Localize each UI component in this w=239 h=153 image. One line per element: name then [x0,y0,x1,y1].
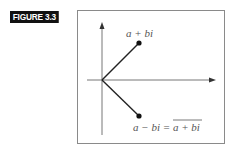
imaginary-axis-arrow-icon [100,22,105,29]
complex-plane-diagram [0,0,239,153]
label-z-conjugate-left: a − bi = [133,121,173,133]
label-z: a + bi [126,27,153,39]
vector-z [102,43,139,80]
point-z-conjugate [136,113,141,118]
real-axis [87,78,216,83]
vector-z-conjugate [102,80,139,116]
real-axis-arrow-icon [209,78,216,83]
label-z-conjugate: a − bi = a + bi [133,121,200,133]
point-z [136,40,141,45]
label-z-conjugate-right: a + bi [173,121,200,133]
